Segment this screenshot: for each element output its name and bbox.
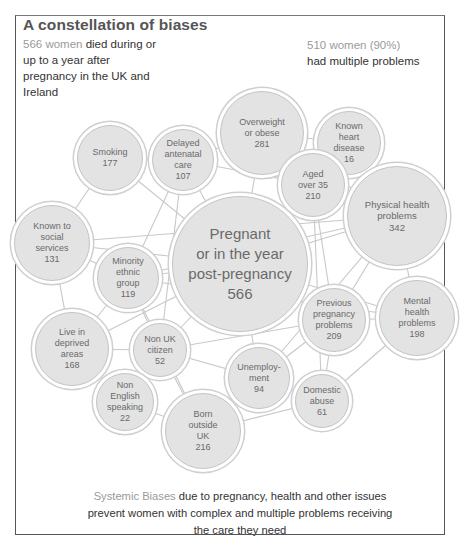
bottom-rule [15, 534, 445, 535]
node-bornoutside: Born outside UK 216 [165, 393, 241, 469]
footer-highlight: Systemic Biases [94, 490, 176, 502]
node-label: Previous pregnancy problems 209 [313, 298, 355, 342]
node-nonuk: Non UK citizen 52 [133, 323, 187, 377]
node-minority: Minority ethnic group 119 [97, 247, 159, 309]
node-domestic: Domestic abuse 61 [295, 374, 349, 428]
node-unemployment: Unemploy- ment 94 [228, 347, 290, 409]
node-label: Smoking 177 [92, 147, 127, 169]
node-label: Domestic abuse 61 [303, 385, 341, 418]
node-label: Mental health problems 198 [398, 296, 435, 340]
node-label: Known to social services 131 [33, 221, 71, 265]
node-nonenglish: Non English speaking 22 [96, 373, 154, 431]
node-antenatal: Delayed antenatal care 107 [152, 129, 214, 191]
node-aged35: Aged over 35 210 [281, 153, 345, 217]
node-deprived: Live in deprived areas 168 [35, 312, 109, 386]
node-label: Minority ethnic group 119 [112, 256, 144, 300]
node-label: Unemploy- ment 94 [237, 362, 281, 395]
node-smoking: Smoking 177 [77, 125, 143, 191]
node-label: Non English speaking 22 [107, 380, 143, 424]
node-label: Live in deprived areas 168 [55, 327, 90, 371]
node-label: Delayed antenatal care 107 [164, 138, 201, 182]
node-pregnant: Pregnant or in the year post-pregnancy 5… [172, 196, 308, 332]
node-prevpreg: Previous pregnancy problems 209 [302, 288, 366, 352]
node-label: Overweight or obese 281 [239, 117, 285, 150]
node-physical: Physical health problems 342 [347, 166, 447, 266]
node-social: Known to social services 131 [14, 205, 90, 281]
node-label: Born outside UK 216 [188, 409, 217, 453]
footer-caption: Systemic Biases due to pregnancy, health… [80, 488, 400, 539]
node-mental: Mental health problems 198 [379, 280, 455, 356]
node-label: Physical health problems 342 [365, 199, 430, 234]
node-label: Non UK citizen 52 [144, 334, 176, 367]
node-label: Pregnant or in the year post-pregnancy 5… [188, 224, 291, 304]
node-label: Aged over 35 210 [298, 169, 328, 202]
node-label: Known heart disease 16 [333, 121, 364, 165]
